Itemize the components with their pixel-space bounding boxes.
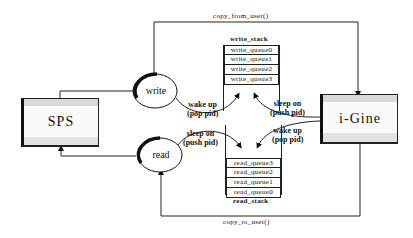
write-to-sps-line [60,91,133,98]
igine-label: i-Gine [339,111,381,127]
write-queue-3: write_queue3 [224,75,279,85]
write-stack-title: write_stack [230,36,268,43]
write-sleep-label: sleep on (push pid) [270,99,305,117]
read-stack-title: read_stack [233,198,269,205]
copy-from-user-label: copy_from_user() [213,13,268,20]
write-wake-label: wake up (pop pid) [187,100,218,118]
write-node-label: write [138,85,174,96]
read-wake-label: wake up (pop pid) [272,126,303,144]
write-queue-2: write_queue2 [224,65,279,75]
write-queue-1: write_queue1 [224,55,279,65]
read-to-sps-arrow [61,148,136,156]
read-queue-3: read_queue3 [226,158,281,168]
sps-node: SPS [21,98,99,147]
read-sleep-label: sleep on (push pid) [183,129,218,147]
sps-label: SPS [48,114,74,130]
read-queue-1: read_queue1 [226,178,281,188]
read-node-label: read [143,149,179,160]
copy-to-user-label: copy_to_user() [223,219,270,226]
write-queue-0: write_queue0 [224,45,279,55]
read-queue-2: read_queue2 [226,168,281,178]
igine-node: i-Gine [320,94,398,144]
